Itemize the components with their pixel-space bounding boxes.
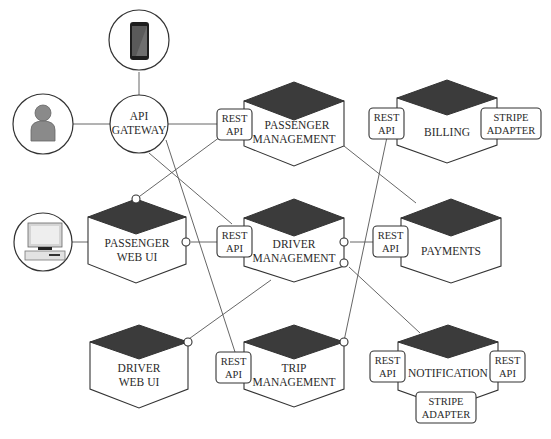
driver-mgmt-label-2: MANAGEMENT xyxy=(252,252,335,264)
rest-api-label-1: REST xyxy=(222,230,248,241)
stripe-adapter-label-1: STRIPE xyxy=(428,396,463,407)
trip-mgmt-label-2: MANAGEMENT xyxy=(252,376,335,388)
notification-rest-api-right[interactable]: REST API xyxy=(490,351,525,382)
api-gateway-label-2: GATEWAY xyxy=(112,124,167,136)
port-connector xyxy=(340,338,348,346)
rest-api-label-2: API xyxy=(382,243,399,254)
rest-api-label-2: API xyxy=(225,369,242,380)
passenger-mgmt-label-1: PASSENGER xyxy=(265,119,330,131)
driver-mgmt-label-1: DRIVER xyxy=(273,238,316,250)
driver-mgmt-rest-api[interactable]: REST API xyxy=(217,226,252,257)
payments-rest-api[interactable]: REST API xyxy=(373,226,408,257)
desktop-computer-icon xyxy=(25,223,65,260)
rest-api-label-1: REST xyxy=(222,113,248,124)
rest-api-label-1: REST xyxy=(495,355,521,366)
service-passenger-web-ui[interactable]: PASSENGER WEB UI xyxy=(88,195,190,283)
billing-stripe-adapter[interactable]: STRIPE ADAPTER xyxy=(481,108,541,139)
port-connector xyxy=(340,259,348,267)
rest-api-label-1: REST xyxy=(378,230,404,241)
service-notification[interactable]: NOTIFICATION REST API REST API STRIPE AD… xyxy=(370,325,525,423)
passenger-webui-label-1: PASSENGER xyxy=(105,237,170,249)
smartphone-icon xyxy=(130,22,149,60)
rest-api-label-2: API xyxy=(226,126,243,137)
port-connector xyxy=(184,338,192,346)
rest-api-label-1: REST xyxy=(375,355,401,366)
rest-api-label-2: API xyxy=(379,368,396,379)
service-trip-management[interactable]: TRIP MANAGEMENT REST API xyxy=(216,325,348,407)
service-passenger-management[interactable]: PASSENGER MANAGEMENT REST API xyxy=(217,82,344,166)
rest-api-label-2: API xyxy=(226,243,243,254)
mobile-client[interactable] xyxy=(109,10,169,70)
passenger-webui-label-2: WEB UI xyxy=(117,251,158,263)
billing-label: BILLING xyxy=(424,126,470,138)
service-driver-management[interactable]: DRIVER MANAGEMENT REST API xyxy=(217,199,348,282)
service-driver-web-ui[interactable]: DRIVER WEB UI xyxy=(90,325,192,408)
port-connector xyxy=(340,238,348,246)
port-connector xyxy=(132,195,140,203)
trip-mgmt-label-1: TRIP xyxy=(282,362,307,374)
passenger-mgmt-label-2: MANAGEMENT xyxy=(252,133,335,145)
driver-webui-label-2: WEB UI xyxy=(119,376,160,388)
api-gateway[interactable]: API GATEWAY xyxy=(110,95,168,153)
payments-label: PAYMENTS xyxy=(421,245,481,257)
notification-rest-api-left[interactable]: REST API xyxy=(370,351,405,382)
service-payments[interactable]: PAYMENTS REST API xyxy=(373,199,501,283)
rest-api-label-1: REST xyxy=(374,112,400,123)
edge-passenger-mgmt-payments xyxy=(344,146,416,203)
driver-webui-label-1: DRIVER xyxy=(118,362,161,374)
rest-api-label-2: API xyxy=(378,125,395,136)
rest-api-label-2: API xyxy=(499,368,516,379)
edge-driver-mgmt-notification xyxy=(349,267,420,333)
service-billing[interactable]: BILLING REST API STRIPE ADAPTER xyxy=(369,80,541,163)
trip-mgmt-rest-api[interactable]: REST API xyxy=(216,352,251,383)
notification-stripe-adapter[interactable]: STRIPE ADAPTER xyxy=(416,392,476,423)
api-gateway-label-1: API xyxy=(130,110,149,122)
desktop-client[interactable] xyxy=(14,213,72,271)
microservices-architecture-diagram: API GATEWAY PASSENGER MANAGEMENT REST AP… xyxy=(0,0,551,439)
port-connector xyxy=(182,238,190,246)
user-actor[interactable] xyxy=(13,94,73,154)
passenger-mgmt-rest-api[interactable]: REST API xyxy=(217,109,252,140)
notification-label: NOTIFICATION xyxy=(408,367,489,379)
billing-rest-api[interactable]: REST API xyxy=(369,108,404,139)
stripe-adapter-label-1: STRIPE xyxy=(493,112,528,123)
stripe-adapter-label-2: ADAPTER xyxy=(422,409,470,420)
rest-api-label-1: REST xyxy=(221,356,247,367)
stripe-adapter-label-2: ADAPTER xyxy=(487,125,535,136)
